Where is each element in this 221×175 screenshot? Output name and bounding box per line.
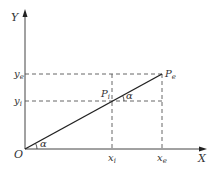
angle-arc-origin [36, 143, 38, 149]
x-axis-arrow-icon [199, 147, 207, 152]
alpha-pi-label: α [126, 90, 133, 101]
origin-label: O [14, 148, 23, 161]
ye-label: ye [13, 68, 24, 81]
xe-label: xe [157, 152, 167, 165]
pe-label: Pe [164, 68, 176, 81]
pi-label: Pi [100, 88, 110, 101]
alpha-origin-label: α [40, 138, 47, 149]
y-axis-arrow-icon [23, 9, 28, 17]
linear-interpolation-diagram: Y X O ye yi xi xe Pe Pi α α [0, 0, 221, 175]
yi-label: yi [13, 95, 22, 108]
y-axis-label: Y [11, 11, 20, 24]
x-axis-label: X [197, 152, 207, 165]
xi-label: xi [108, 152, 116, 165]
angle-arc-pi [123, 95, 125, 101]
